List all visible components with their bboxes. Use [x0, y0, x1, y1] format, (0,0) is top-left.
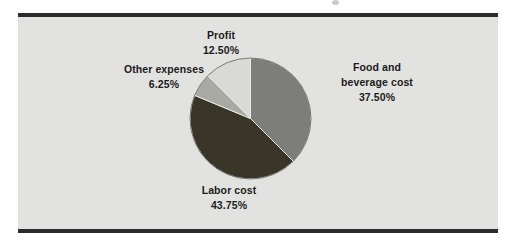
- pie-label-labor-cost-name: Labor cost: [168, 183, 290, 198]
- pie-label-profit-value: 12.50%: [166, 43, 276, 58]
- pie-label-food-and-beverage-cost-value: 37.50%: [322, 90, 432, 105]
- pie-label-profit: Profit 12.50%: [166, 28, 276, 58]
- pie-label-food-and-beverage-cost: Food and beverage cost 37.50%: [322, 60, 432, 105]
- pie-label-labor-cost: Labor cost 43.75%: [168, 183, 290, 213]
- figure-container: Profit 12.50% Other expenses 6.25% Food …: [0, 0, 510, 246]
- pie-label-food-and-beverage-cost-name-line2: beverage cost: [322, 75, 432, 90]
- pie-label-other-expenses-value: 6.25%: [102, 77, 226, 92]
- pie-label-other-expenses-name: Other expenses: [102, 62, 226, 77]
- pie-label-food-and-beverage-cost-name-line1: Food and: [322, 60, 432, 75]
- pie-label-labor-cost-value: 43.75%: [168, 198, 290, 213]
- pie-label-profit-name: Profit: [166, 28, 276, 43]
- pie-label-other-expenses: Other expenses 6.25%: [102, 62, 226, 92]
